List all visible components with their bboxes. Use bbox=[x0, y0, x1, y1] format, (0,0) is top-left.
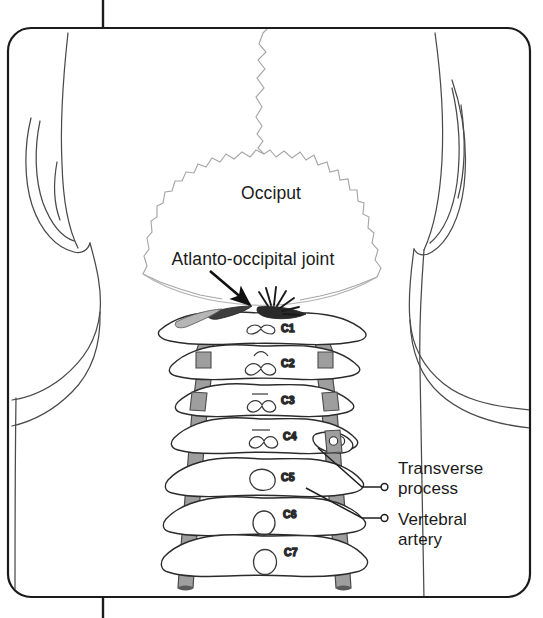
atlanto-occipital-joint-label: Atlanto-occipital joint bbox=[172, 249, 335, 269]
transverse-process-label-line1: Transverse bbox=[398, 459, 483, 478]
c7-body bbox=[161, 535, 367, 577]
occiput-label: Occiput bbox=[241, 183, 301, 203]
vertebra-label-c5: C5 bbox=[281, 471, 295, 483]
vertebra-label-c1: C1 bbox=[281, 322, 295, 334]
left-artery-segment-c2 bbox=[196, 352, 211, 368]
vertebral-artery-label-line1: Vertebral bbox=[398, 510, 467, 529]
vertebra-c6: C6 bbox=[163, 497, 365, 536]
vertebra-label-c2: C2 bbox=[281, 357, 295, 369]
c6-body bbox=[163, 497, 365, 536]
vertebra-label-c6: C6 bbox=[283, 508, 297, 520]
vertebra-label-c4: C4 bbox=[283, 430, 297, 442]
vertebral-artery-leader-dot bbox=[381, 515, 388, 522]
transverse-process-label-line2: process bbox=[398, 479, 458, 498]
vertebra-label-c3: C3 bbox=[281, 394, 295, 406]
transverse-process-leader-dot bbox=[381, 484, 388, 491]
cervical-spine-illustration: Occiput Atlanto-occipital joint bbox=[0, 0, 543, 618]
vertebra-label-c7: C7 bbox=[284, 546, 298, 558]
anatomical-figure: Occiput Atlanto-occipital joint bbox=[0, 0, 543, 618]
right-artery-segment-c2 bbox=[318, 352, 333, 368]
left-artery-segment-c3 bbox=[190, 392, 207, 411]
right-artery-end bbox=[336, 585, 351, 590]
left-artery-end bbox=[178, 585, 193, 590]
vertebral-artery-label-line2: artery bbox=[398, 530, 442, 549]
vertebra-c7: C7 bbox=[161, 535, 367, 577]
vertebra-c5: C5 bbox=[165, 458, 363, 497]
starburst-ray-6 bbox=[283, 314, 300, 315]
right-artery-foramen-highlight bbox=[329, 437, 337, 445]
right-artery-segment-c3 bbox=[322, 392, 339, 411]
